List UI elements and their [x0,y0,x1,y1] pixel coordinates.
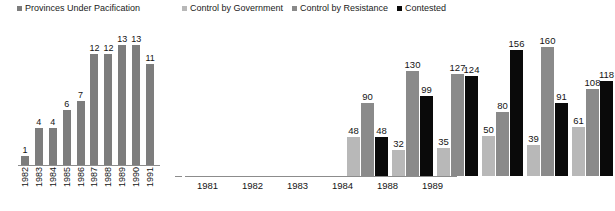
bar-value-label: 7 [78,90,83,100]
bar[interactable] [465,76,478,176]
bar-slot: 130 [406,26,419,176]
bar-group: 3213099 [390,26,435,176]
bar[interactable] [118,45,126,165]
bar[interactable] [104,54,112,165]
x-axis-label: 1982 [230,180,275,200]
x-axis-label-text: 1982 [20,167,30,187]
bar-value-label: 12 [89,43,99,53]
x-axis-label: 1982 [18,167,32,209]
bar-group: 12 [88,24,102,165]
bar-slot: 50 [482,26,495,176]
bar-value-label: 32 [393,138,404,149]
bar[interactable] [420,96,433,176]
x-axis-labels-right: 198119821983198419881989 [185,180,455,200]
legend-label: Control by Resistance [300,3,388,13]
bar-slot: 99 [420,26,433,176]
bar-value-label: 99 [421,84,432,95]
bar[interactable] [482,136,495,176]
legend-item-2: Control by Resistance [292,3,388,13]
bar-value-label: 1 [22,145,27,155]
bar-group: 6 [60,24,74,165]
bar-slot: 32 [392,26,405,176]
x-axis-label: 1989 [410,180,455,200]
bar[interactable] [375,137,388,176]
bar[interactable] [347,137,360,176]
bar-slot: 108 [586,26,599,176]
x-axis-label: 1983 [32,167,46,209]
bar[interactable] [77,101,85,166]
chart-provinces-under-pacification: Provinces Under Pacification 14467121213… [0,0,160,211]
x-axis-label: 1985 [60,167,74,209]
x-axis-label: 1988 [101,167,115,209]
bar-slot: 124 [465,26,478,176]
x-axis-label-text: 1984 [48,167,58,187]
x-axis-label-text: 1991 [145,167,155,187]
bar-slot: 48 [347,26,360,176]
bar[interactable] [63,110,71,165]
x-axis-label-text: 1986 [76,167,86,187]
bar[interactable] [406,71,419,176]
bar[interactable] [451,74,464,176]
bar-value-label: 35 [438,136,449,147]
bar-group: 4 [32,24,46,165]
bar-value-label: 48 [376,125,387,136]
bar[interactable] [437,148,450,176]
bar-group: 4 [46,24,60,165]
bar[interactable] [132,45,140,165]
x-axis-label-text: 1987 [89,167,99,187]
bar-value-label: 61 [573,115,584,126]
bar-value-label: 156 [509,38,525,49]
bar-slot: 127 [451,26,464,176]
bar-group: 1 [18,24,32,165]
bar-group: 5080156 [480,26,525,176]
x-axis-label-text: 1985 [62,167,72,187]
bar[interactable] [21,156,29,165]
bar[interactable] [146,64,154,165]
bar-value-label: 90 [362,91,373,102]
legend-label: Control by Government [190,3,283,13]
bar[interactable] [586,89,599,176]
bar[interactable] [496,112,509,176]
bar-value-label: 6 [64,99,69,109]
bar-value-label: 124 [464,64,480,75]
bar-slot: 80 [496,26,509,176]
legend-swatch-icon [17,6,22,11]
legend-item-provinces: Provinces Under Pacification [17,3,140,13]
bar-value-label: 130 [405,59,421,70]
x-axis-label: 1990 [129,167,143,209]
bar[interactable] [555,103,568,176]
bar[interactable] [527,145,540,176]
bar[interactable] [90,54,98,165]
legend-swatch-icon [397,6,402,11]
x-axis-label: 1981 [185,180,230,200]
bar-group: 7 [74,24,88,165]
x-axis-label-text: 1990 [131,167,141,187]
x-axis-label-text: 1983 [34,167,44,187]
bar[interactable] [49,128,57,165]
bar-value-label: 13 [117,34,127,44]
bar-group: 12 [101,24,115,165]
bar[interactable] [572,127,585,176]
bar[interactable] [510,50,523,176]
x-axis-label: 1984 [46,167,60,209]
bar[interactable] [541,47,554,176]
bar-value-label: 91 [556,91,567,102]
bar[interactable] [361,103,374,176]
x-axis-label: 1989 [115,167,129,209]
bar-slot: 90 [361,26,374,176]
bar-slot: 35 [437,26,450,176]
bar-slot: 39 [527,26,540,176]
bar-value-label: 39 [528,133,539,144]
legend-left: Provinces Under Pacification [17,3,140,13]
bar[interactable] [392,150,405,176]
bar[interactable] [600,81,613,176]
legend-right: Control by GovernmentControl by Resistan… [182,3,446,13]
x-axis-line-left [18,165,160,166]
bar[interactable] [35,128,43,165]
legend-item-3: Contested [397,3,446,13]
x-axis-label: 1988 [365,180,410,200]
legend-label: Provinces Under Pacification [25,3,140,13]
bar-group: 489048 [345,26,390,176]
bar-value-label: 80 [497,100,508,111]
